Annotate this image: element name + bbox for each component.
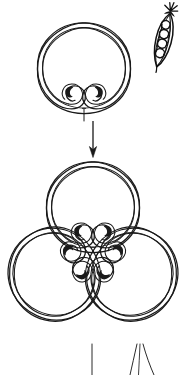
diagram-canvas xyxy=(0,0,193,375)
diagram-svg xyxy=(0,0,193,375)
diagram-page: Spiral Ring Motif Construction Diagram S… xyxy=(0,0,193,375)
